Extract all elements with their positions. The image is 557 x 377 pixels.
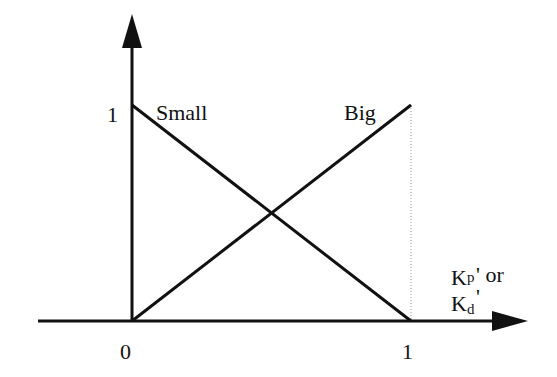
x-tick-1-label: 1 <box>402 339 413 364</box>
x-axis-kd-prime: ' <box>476 284 480 309</box>
x-axis-kd: K <box>451 291 467 316</box>
x-axis-kp-subscript: p <box>467 269 475 285</box>
x-axis-kd-subscript: d <box>467 301 475 317</box>
x-axis-prime-or: ' or <box>476 262 504 287</box>
x-tick-0-label: 0 <box>120 339 131 364</box>
x-axis-kp: K <box>451 265 467 290</box>
small-label: Small <box>156 100 207 125</box>
membership-function-diagram: 1 Small Big 0 1 K p ' or K d ' <box>0 0 557 377</box>
x-axis-label: K p ' or K d ' <box>451 262 504 317</box>
y-tick-1-label: 1 <box>107 102 118 127</box>
x-axis-arrow-icon <box>492 311 528 331</box>
big-label: Big <box>344 100 376 125</box>
y-axis-arrow-icon <box>122 14 142 48</box>
